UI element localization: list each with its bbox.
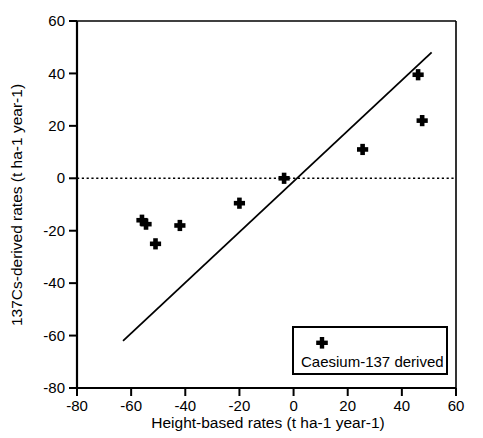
y-axis-ticks: -80-60-40-200204060 xyxy=(43,12,77,396)
y-tick-label: 40 xyxy=(48,65,65,82)
chart-figure: -80-60-40-200204060 -80-60-40-200204060 … xyxy=(0,0,483,438)
x-tick-label: -60 xyxy=(120,397,142,414)
x-axis-title: Height-based rates (t ha-1 year-1) xyxy=(151,414,384,431)
x-tick-label: -40 xyxy=(174,397,196,414)
x-tick-label: 40 xyxy=(394,397,411,414)
y-tick-label: -20 xyxy=(43,222,65,239)
x-tick-label: -20 xyxy=(229,397,251,414)
legend-label-caesium-137: Caesium-137 derived xyxy=(301,353,444,370)
x-tick-label: 0 xyxy=(289,397,297,414)
x-axis-ticks: -80-60-40-200204060 xyxy=(66,388,464,414)
y-axis-title: 137Cs-derived rates (t ha-1 year-1) xyxy=(8,84,25,326)
y-tick-label: -60 xyxy=(43,327,65,344)
y-tick-label: -40 xyxy=(43,274,65,291)
y-tick-label: 0 xyxy=(57,169,65,186)
y-tick-label: 20 xyxy=(48,117,65,134)
x-tick-label: 60 xyxy=(448,397,465,414)
x-tick-label: -80 xyxy=(66,397,88,414)
x-tick-label: 20 xyxy=(339,397,356,414)
scatter-plot: -80-60-40-200204060 -80-60-40-200204060 … xyxy=(0,0,483,438)
y-tick-label: -80 xyxy=(43,379,65,396)
y-tick-label: 60 xyxy=(48,12,65,29)
legend: Caesium-137 derived xyxy=(293,327,447,374)
